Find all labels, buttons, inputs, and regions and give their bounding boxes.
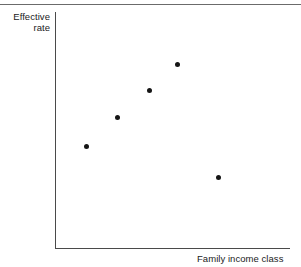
x-axis-line (55, 248, 290, 249)
data-point (115, 115, 120, 120)
data-point (147, 88, 152, 93)
figure-scatter-effective-rate: Effective rate Family income class (0, 0, 301, 267)
x-axis-title: Family income class (197, 253, 283, 264)
data-point (216, 175, 221, 180)
y-axis-title: Effective rate (0, 11, 50, 33)
top-horizontal-rule (0, 4, 301, 5)
y-axis-title-line-2: rate (0, 22, 50, 33)
plot-area (0, 0, 301, 267)
cut-off-caption-text (95, 0, 215, 3)
data-point (84, 144, 89, 149)
y-axis-title-line-1: Effective (0, 11, 50, 22)
data-point (175, 62, 180, 67)
y-axis-line (55, 12, 56, 248)
